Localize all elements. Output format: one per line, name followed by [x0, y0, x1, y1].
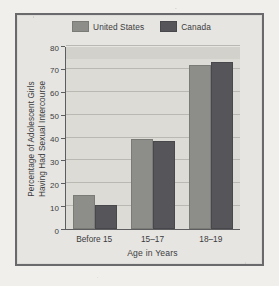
legend-item-canada: Canada	[160, 21, 211, 32]
bar-canada	[95, 205, 117, 229]
legend-item-united-states: United States	[72, 21, 144, 32]
y-tick-mark	[61, 46, 65, 47]
y-tick-mark	[61, 229, 65, 230]
y-axis-title-line2: Having Had Sexual Intercourse	[38, 80, 47, 196]
bar-united-states	[131, 139, 153, 229]
y-tick-label: 70	[50, 66, 59, 75]
plot-wrapper: 01020304050607080	[65, 47, 240, 230]
bar-canada	[211, 62, 233, 229]
x-tick-label: 15–17	[123, 234, 181, 244]
legend-label-united-states: United States	[93, 22, 144, 32]
y-tick-mark	[61, 206, 65, 207]
y-tick-label: 20	[50, 180, 59, 189]
y-tick-mark	[61, 160, 65, 161]
x-tick-label: 18–19	[182, 234, 240, 244]
y-tick-label: 50	[50, 112, 59, 121]
y-tick-mark	[61, 138, 65, 139]
y-tick-mark	[61, 69, 65, 70]
gridline	[66, 45, 240, 46]
scanned-page: United States Canada Percentage of Adole…	[0, 0, 279, 286]
y-axis-title-line1: Percentage of Adolescent Girls	[27, 81, 36, 196]
y-tick-mark	[61, 115, 65, 116]
legend-swatch-canada	[160, 21, 177, 32]
legend-swatch-united-states	[72, 21, 89, 32]
chart-legend: United States Canada	[17, 21, 266, 32]
bar-group	[189, 47, 233, 229]
y-tick-label: 30	[50, 157, 59, 166]
bar-united-states	[73, 195, 95, 229]
bar-group	[73, 47, 117, 229]
y-tick-label: 60	[50, 89, 59, 98]
y-tick-mark	[61, 92, 65, 93]
x-axis-tick-labels: Before 1515–1718–19	[65, 234, 240, 244]
bar-group	[131, 47, 175, 229]
legend-label-canada: Canada	[181, 22, 211, 32]
y-axis-title: Percentage of Adolescent Girls Having Ha…	[25, 47, 49, 230]
y-tick-label: 0	[55, 226, 59, 235]
x-tick-label: Before 15	[65, 234, 123, 244]
bar-canada	[153, 141, 175, 229]
y-tick-label: 40	[50, 135, 59, 144]
y-tick-label: 80	[50, 43, 59, 52]
bar-series-container	[66, 47, 240, 229]
bar-united-states	[189, 65, 211, 229]
y-tick-label: 10	[50, 203, 59, 212]
figure-frame: United States Canada Percentage of Adole…	[15, 13, 264, 266]
x-axis-title: Age in Years	[65, 248, 240, 258]
y-tick-mark	[61, 183, 65, 184]
plot-area	[65, 47, 240, 230]
